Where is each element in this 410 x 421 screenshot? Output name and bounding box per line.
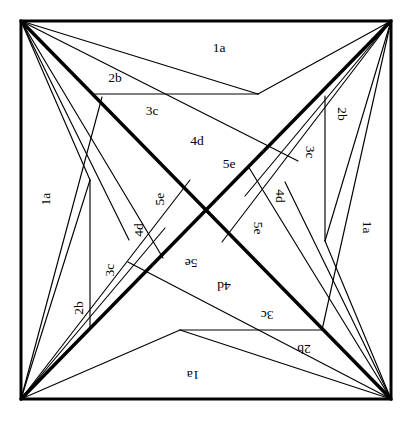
band-label-4d: 4d	[273, 189, 288, 203]
ray-tr-5	[222, 21, 391, 242]
ray-tl-4	[21, 21, 129, 240]
ray-tl-3	[21, 21, 90, 180]
ray-bl-5	[21, 180, 190, 399]
ray-tr-4	[245, 21, 391, 196]
band-label-4d: 4d	[217, 279, 231, 294]
band-label-2b: 2b	[108, 70, 122, 85]
ray-br-3	[325, 241, 391, 399]
band-label-4d: 4d	[190, 133, 204, 148]
band-label-1a: 1a	[360, 221, 375, 234]
band-label-3c: 3c	[146, 103, 159, 118]
band-label-4d: 4d	[131, 223, 146, 237]
ray-bl-3	[21, 330, 180, 399]
band-label-2b: 2b	[297, 342, 311, 357]
band-label-5e: 5e	[251, 222, 266, 235]
ray-tr-2	[322, 21, 391, 330]
band-label-5e: 5e	[223, 156, 236, 171]
band-label-1a: 1a	[38, 193, 53, 206]
band-label-1a: 1a	[187, 368, 200, 383]
corner-fan-top-right	[222, 21, 391, 330]
band-label-3c: 3c	[261, 308, 274, 323]
band-label-3c: 3c	[303, 146, 318, 159]
corner-fan-bottom-left	[21, 97, 190, 399]
ray-br-5	[248, 166, 391, 399]
band-label-5e: 5e	[185, 256, 198, 271]
ray-bl-4	[21, 228, 165, 399]
corner-fan-bottom-right	[128, 166, 391, 399]
ray-tr-3	[258, 21, 391, 94]
band-label-2b: 2b	[71, 301, 86, 315]
band-label-3c: 3c	[102, 264, 117, 277]
band-label-2b: 2b	[335, 107, 350, 121]
star-polygon-diagram: 1a2b3c4d5e1a2b3c4d5e1a2b3c4d5e1a2b3c4d5e	[0, 0, 410, 421]
ray-br-4	[285, 182, 391, 399]
figure-root: 1a2b3c4d5e1a2b3c4d5e1a2b3c4d5e1a2b3c4d5e	[0, 0, 410, 421]
band-label-1a: 1a	[213, 40, 226, 55]
band-label-5e: 5e	[152, 193, 167, 206]
